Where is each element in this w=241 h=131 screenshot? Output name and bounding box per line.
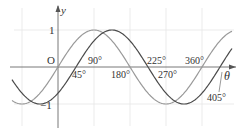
x-axis-label: θ [224, 69, 230, 83]
x-tick-90: 90° [88, 55, 102, 66]
x-axis-arrow-icon [229, 65, 236, 70]
labels: y θ O 1 −1 45° 90° 180° 225° 270° 360° 4… [40, 4, 230, 111]
sine-graph: y θ O 1 −1 45° 90° 180° 225° 270° 360° 4… [0, 0, 241, 131]
callout-405-leader [219, 72, 222, 92]
y-axis-label: y [60, 4, 66, 16]
x-tick-405: 405° [207, 92, 226, 103]
x-tick-225: 225° [147, 55, 166, 66]
x-tick-360: 360° [185, 55, 204, 66]
y-axis-arrow-icon [56, 5, 61, 12]
y-tick-1: 1 [49, 24, 55, 36]
origin-label: O [47, 54, 55, 66]
y-tick-neg1: −1 [40, 99, 52, 111]
x-tick-45: 45° [72, 69, 86, 80]
x-tick-180: 180° [111, 69, 130, 80]
x-tick-270: 270° [158, 69, 177, 80]
